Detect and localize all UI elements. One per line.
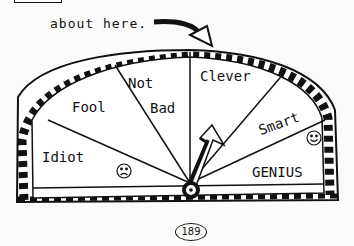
label-clever: Clever: [200, 68, 251, 84]
curved-arrow-icon: [154, 22, 212, 46]
intelligence-meter: Fool Not Bad Clever Smart Idiot GENIUS: [0, 0, 354, 246]
page-number: 189: [175, 223, 207, 241]
label-bad: Bad: [150, 100, 175, 116]
label-idiot: Idiot: [42, 149, 84, 165]
label-genius: GENIUS: [252, 164, 303, 180]
label-not: Not: [128, 75, 153, 91]
label-fool: Fool: [72, 99, 106, 115]
